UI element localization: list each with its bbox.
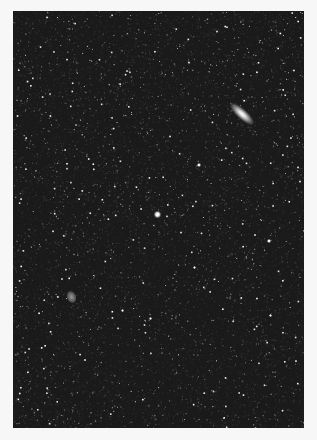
star — [269, 314, 272, 317]
star — [149, 317, 152, 320]
star — [197, 163, 201, 167]
star — [121, 309, 124, 312]
star — [193, 266, 196, 269]
star-field-canvas — [13, 11, 304, 428]
star-field-image — [13, 11, 304, 428]
star — [267, 239, 271, 243]
central-bright-star — [154, 211, 161, 218]
